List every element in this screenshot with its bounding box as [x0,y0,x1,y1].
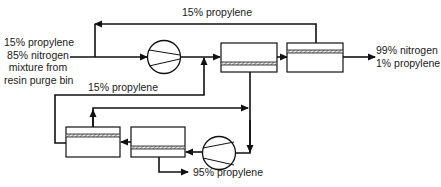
membrane-module-3 [66,127,120,157]
membrane-module-1 [221,43,277,72]
nitrogen-product-line-1: 99% nitrogen [376,44,440,57]
nitrogen-product-line-2: 1% propylene [376,57,440,70]
feed-label-line-3: mixture from [4,61,72,74]
compressor-1-icon [148,41,181,74]
compressor-2-icon [203,137,236,170]
propylene-product-label: 95% propylene [193,166,263,179]
process-flow-diagram [0,0,441,187]
membrane-module-4 [131,127,185,157]
feed-label-line-4: resin purge bin [4,74,72,87]
top-recycle-line [95,24,316,43]
lower-recycle-label: 15% propylene [88,81,158,94]
nitrogen-product-label: 99% nitrogen 1% propylene [376,44,440,69]
feed-label: 15% propylene 85% nitrogen mixture from … [4,36,72,86]
membrane-module-2 [287,43,343,72]
feed-label-line-2: 85% nitrogen [4,49,72,62]
propylene-product-line [159,157,188,172]
membrane3-retentate-line [93,108,248,127]
top-recycle-label: 15% propylene [182,6,252,19]
feed-label-line-1: 15% propylene [4,36,72,49]
membrane1-permeate-line [236,72,250,153]
